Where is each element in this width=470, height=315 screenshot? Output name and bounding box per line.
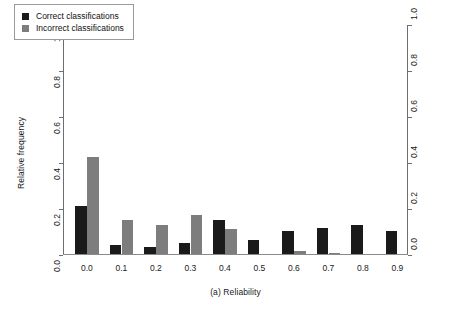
- bar: [351, 225, 363, 254]
- bar: [179, 243, 191, 255]
- y-axis-label: Relative frequency: [14, 38, 28, 268]
- bar: [294, 251, 306, 254]
- y-tick-label: 0.4: [53, 163, 62, 185]
- y-tick-label: 0.6: [53, 117, 62, 139]
- x-tick-label: 0.4: [210, 263, 240, 273]
- y-tick-label: 0.4: [410, 141, 419, 163]
- x-tick-label: 0.8: [348, 263, 378, 273]
- chart-figure: Relative frequency (a) Reliability 0.00.…: [0, 0, 470, 315]
- x-tick-label: 0.1: [106, 263, 136, 273]
- y-tick-label: 0.2: [410, 187, 419, 209]
- y-tick-label: 0.6: [410, 95, 419, 117]
- bar: [87, 157, 99, 254]
- y-tick-label: 0.8: [410, 49, 419, 71]
- bar: [110, 245, 122, 254]
- bar: [248, 240, 260, 254]
- bar: [317, 228, 329, 254]
- bar: [122, 220, 134, 255]
- legend-swatch-icon: [22, 13, 29, 20]
- x-tick-label: 0.7: [313, 263, 343, 273]
- bar: [75, 206, 87, 254]
- bar: [191, 215, 203, 254]
- x-axis-line: [63, 254, 408, 255]
- bar: [329, 253, 341, 254]
- x-tick-label: 0.5: [244, 263, 274, 273]
- bar: [156, 225, 168, 254]
- x-tick-label: 0.2: [141, 263, 171, 273]
- x-tick-label: 0.0: [72, 263, 102, 273]
- bar: [213, 220, 225, 255]
- plot-area: 0.00.20.40.60.81.0 0.00.20.40.60.81.0 0.…: [63, 25, 408, 255]
- legend-label: Correct classifications: [36, 10, 119, 22]
- bar: [144, 247, 156, 254]
- legend-swatch-icon: [22, 25, 29, 32]
- y-tick-label: 0.8: [53, 71, 62, 93]
- y-tick-label: 0.0: [53, 255, 62, 277]
- bar: [282, 231, 294, 254]
- legend-item: Incorrect classifications: [22, 22, 124, 34]
- bar: [386, 231, 398, 254]
- y-axis-left-line: [63, 25, 64, 255]
- x-axis-label: (a) Reliability: [63, 287, 408, 297]
- y-tick-label: 0.2: [53, 209, 62, 231]
- legend-label: Incorrect classifications: [36, 22, 124, 34]
- legend-item: Correct classifications: [22, 10, 124, 22]
- y-tick-label: 0.0: [410, 233, 419, 255]
- x-tick-label: 0.9: [382, 263, 412, 273]
- bar: [225, 229, 237, 254]
- x-tick-label: 0.3: [175, 263, 205, 273]
- x-tick-label: 0.6: [279, 263, 309, 273]
- y-tick-label: 1.0: [410, 3, 419, 25]
- chart-legend: Correct classificationsIncorrect classif…: [14, 4, 134, 40]
